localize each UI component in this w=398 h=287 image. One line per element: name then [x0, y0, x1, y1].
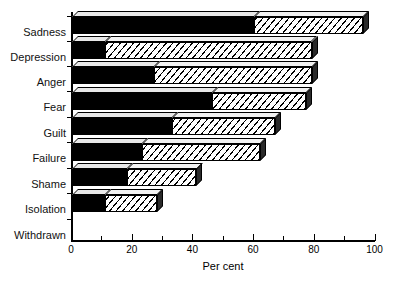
x-minor-tick-50 [223, 236, 224, 241]
x-minor-tick-10 [101, 236, 102, 241]
bar-guilt [72, 112, 281, 135]
x-axis-title: Per cent [71, 261, 375, 272]
category-axis-labels: Sadness Depression Anger Fear Guilt Fail… [0, 0, 66, 287]
percent-bar-chart: Sadness Depression Anger Fear Guilt Fail… [0, 0, 398, 287]
bar-failure [72, 138, 266, 161]
category-label-fear: Fear [0, 102, 66, 113]
x-tick-20 [132, 234, 133, 241]
bar-segment-1-failure [72, 144, 142, 161]
bar-sadness [72, 11, 369, 34]
bar-segment-1-sadness [72, 17, 254, 34]
plot-area: 020406080100 Per cent [71, 0, 398, 287]
bar-anger [72, 61, 318, 84]
category-label-shame: Shame [0, 179, 66, 190]
bar-shame [72, 163, 202, 186]
bar-segment-1-depression [72, 42, 105, 59]
bar-segment-2-sadness [254, 17, 363, 34]
bar-segment-1-shame [72, 169, 127, 186]
bar-side-face [260, 138, 266, 161]
bar-side-face [157, 189, 163, 212]
x-tick-label-100: 100 [360, 245, 390, 255]
x-tick-label-60: 60 [238, 245, 268, 255]
category-label-failure: Failure [0, 153, 66, 164]
bar-segment-2-failure [142, 144, 260, 161]
category-label-guilt: Guilt [0, 128, 66, 139]
bar-isolation [72, 189, 163, 212]
x-tick-label-0: 0 [56, 245, 86, 255]
bar-segment-1-isolation [72, 195, 105, 212]
x-tick-0 [71, 234, 72, 241]
bar-segment-1-guilt [72, 118, 172, 135]
category-label-depression: Depression [0, 52, 66, 63]
x-minor-tick-30 [162, 236, 163, 241]
bar-segment-2-shame [127, 169, 197, 186]
x-tick-label-20: 20 [117, 245, 147, 255]
bar-side-face [306, 87, 312, 110]
category-label-withdrawn: Withdrawn [0, 230, 66, 241]
x-minor-tick-70 [283, 236, 284, 241]
bar-segment-2-guilt [172, 118, 275, 135]
x-minor-tick-90 [344, 236, 345, 241]
x-tick-label-40: 40 [177, 245, 207, 255]
bar-segment-1-anger [72, 67, 154, 84]
bar-side-face [196, 163, 202, 186]
bar-segment-2-fear [212, 93, 306, 110]
x-tick-40 [192, 234, 193, 241]
bar-segment-1-fear [72, 93, 212, 110]
category-label-anger: Anger [0, 77, 66, 88]
bar-depression [72, 36, 318, 59]
bar-segment-2-isolation [105, 195, 157, 212]
y-tick-8 [67, 219, 72, 220]
x-tick-80 [314, 234, 315, 241]
bar-segment-2-depression [105, 42, 311, 59]
x-tick-100 [375, 234, 376, 241]
category-label-sadness: Sadness [0, 27, 66, 38]
bar-side-face [312, 36, 318, 59]
bar-side-face [363, 11, 369, 34]
bar-segment-2-anger [154, 67, 312, 84]
bar-side-face [275, 112, 281, 135]
x-tick-label-80: 80 [299, 245, 329, 255]
bar-fear [72, 87, 312, 110]
bar-side-face [312, 61, 318, 84]
x-tick-60 [253, 234, 254, 241]
category-label-isolation: Isolation [0, 204, 66, 215]
